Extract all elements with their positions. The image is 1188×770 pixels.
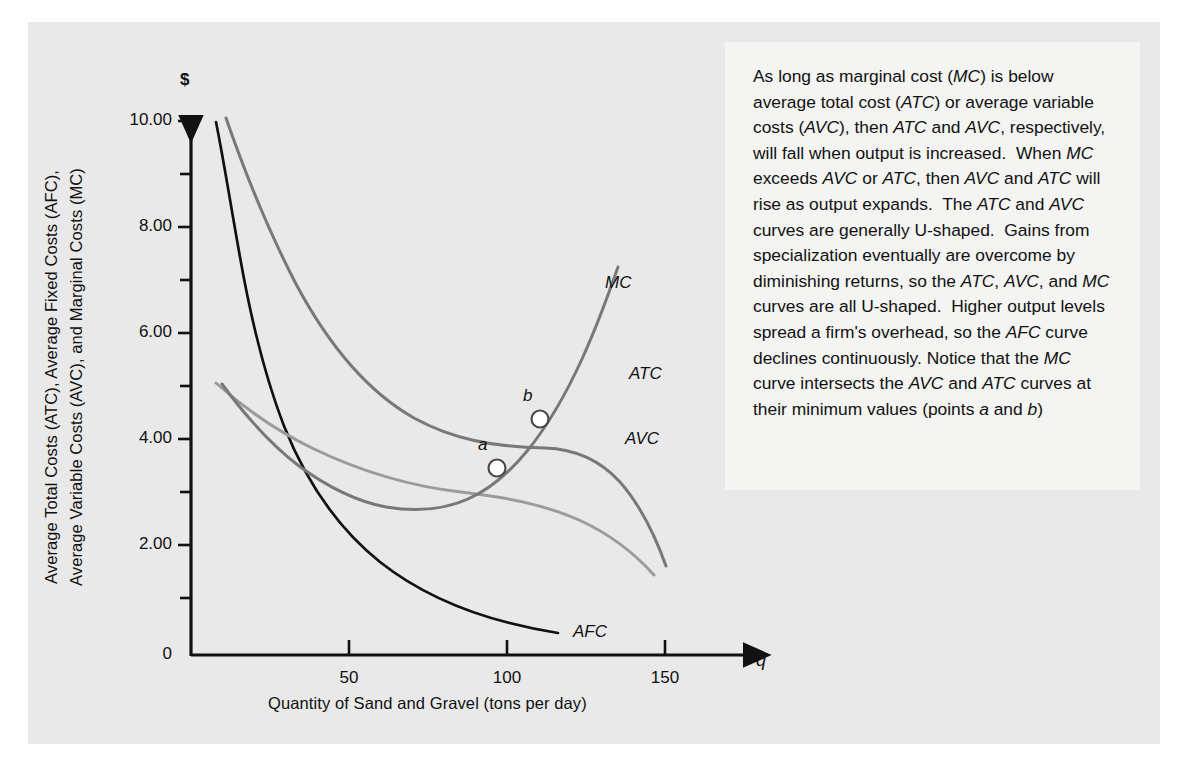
curve-atc — [226, 118, 666, 566]
curve-afc — [216, 122, 558, 633]
caption-text: As long as marginal cost (MC) is below a… — [753, 64, 1114, 422]
x-tick-label-100: 100 — [477, 668, 537, 688]
y-origin-label: 0 — [128, 644, 172, 664]
y-tick-label-8: 8.00 — [76, 216, 172, 236]
figure-panel: $ Average Total Costs (ATC), Average Fix… — [28, 22, 1160, 744]
curve-label-atc: ATC — [629, 364, 662, 384]
chart-svg — [28, 22, 818, 744]
explanatory-caption-box: As long as marginal cost (MC) is below a… — [725, 42, 1140, 490]
x-tick-label-50: 50 — [319, 668, 379, 688]
curve-mc — [222, 267, 618, 510]
y-tick-label-4: 4.00 — [76, 428, 172, 448]
curve-label-mc: MC — [605, 273, 631, 293]
annotation-label-b: b — [523, 386, 532, 406]
y-tick-label-10: 10.00 — [76, 110, 172, 130]
x-tick-label-150: 150 — [635, 668, 695, 688]
x-axis-ticks — [349, 640, 665, 655]
y-tick-label-6: 6.00 — [76, 322, 172, 342]
curve-label-avc: AVC — [625, 429, 659, 449]
point-b-marker — [532, 411, 549, 428]
curve-avc — [216, 383, 654, 575]
y-axis-title-line1: Average Total Costs (ATC), Average Fixed… — [39, 97, 64, 657]
point-a-marker — [489, 460, 506, 477]
axes-group — [191, 118, 746, 656]
y-axis-currency-symbol: $ — [180, 70, 189, 90]
y-axis-ticks — [178, 121, 191, 598]
x-axis-title: Quantity of Sand and Gravel (tons per da… — [268, 694, 587, 713]
curves-group — [216, 118, 666, 633]
y-tick-label-2: 2.00 — [76, 534, 172, 554]
y-axis-title: Average Total Costs (ATC), Average Fixed… — [39, 97, 89, 657]
annotation-label-a: a — [478, 435, 487, 455]
x-axis-variable-symbol: q — [756, 650, 766, 671]
y-axis-title-line2: Average Variable Costs (AVC), and Margin… — [64, 97, 89, 657]
chart-plot-area: $ Average Total Costs (ATC), Average Fix… — [28, 22, 818, 744]
curve-label-afc: AFC — [573, 622, 607, 642]
